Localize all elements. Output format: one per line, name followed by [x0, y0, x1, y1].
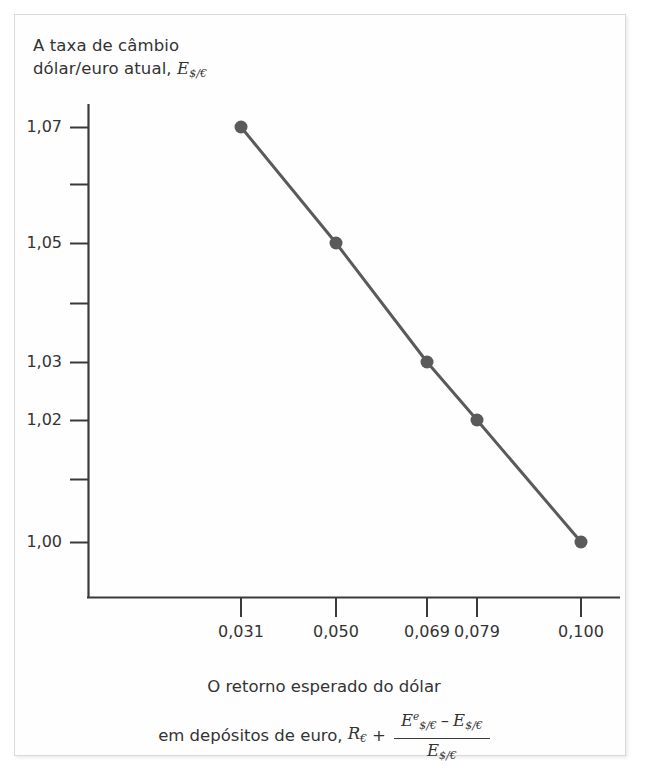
data-point	[575, 536, 588, 549]
x-tick-label-5: 0,100	[545, 622, 617, 641]
numerator-E-expected-subscript: $/€	[419, 719, 437, 732]
y-tick-label-1: 1,07	[4, 117, 62, 136]
x-tick-label-4: 0,079	[441, 622, 513, 641]
x-axis-caption-line2: em depósitos de euro,	[158, 726, 343, 746]
y-tick-label-2: 1,05	[4, 233, 62, 252]
y-tick-label-3: 1,03	[4, 352, 62, 371]
y-axis-ticks	[70, 128, 88, 543]
x-caption-R: R	[348, 724, 360, 743]
denominator-E: E	[427, 741, 439, 760]
x-axis-ticks	[241, 597, 581, 617]
chart-plot-area	[0, 0, 648, 780]
denominator-E-subscript: $/€	[439, 749, 457, 762]
fraction-numerator: Ee$/€–E$/€	[394, 706, 490, 739]
numerator-E-current-subscript: $/€	[465, 719, 483, 732]
data-point	[471, 414, 484, 427]
x-tick-label-1: 0,031	[205, 622, 277, 641]
numerator-minus-sign: –	[441, 711, 449, 730]
data-point	[421, 356, 434, 369]
numerator-E-current: E	[453, 711, 465, 730]
x-tick-label-2: 0,050	[300, 622, 372, 641]
data-point	[235, 121, 248, 134]
y-tick-label-5: 1,00	[4, 532, 62, 551]
x-caption-plus-sign: +	[372, 726, 386, 746]
y-tick-label-4: 1,02	[4, 410, 62, 429]
x-caption-R-subscript: €	[360, 732, 367, 745]
fraction-denominator: E$/€	[420, 739, 464, 766]
x-axis-caption-line1: O retorno esperado do dólar	[0, 676, 648, 698]
x-caption-R-term: R€	[348, 724, 367, 749]
numerator-E-expected: E	[401, 711, 413, 730]
x-axis-caption: O retorno esperado do dólar em depósitos…	[0, 676, 648, 766]
data-point	[330, 237, 343, 250]
fraction: Ee$/€–E$/€ E$/€	[394, 706, 490, 766]
data-line-series	[241, 127, 581, 542]
